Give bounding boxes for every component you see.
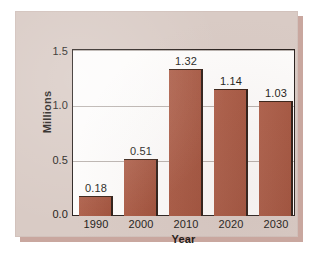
x-tick-2020: 2020 bbox=[219, 218, 244, 230]
bar-value-2010: 1.32 bbox=[175, 55, 197, 67]
y-axis-label: Millions bbox=[41, 74, 53, 150]
scanned-page: 0.18 0.51 1.32 1.14 1.03 1.5 1.0 bbox=[0, 0, 314, 259]
x-axis-label: Year bbox=[72, 233, 295, 245]
y-tick-1-5: 1.5 bbox=[52, 45, 68, 57]
bar-slot-2000: 0.51 bbox=[124, 49, 158, 216]
bar-value-2030: 1.03 bbox=[265, 87, 287, 99]
bar-2030[interactable] bbox=[259, 101, 293, 216]
x-tick-2010: 2010 bbox=[174, 218, 199, 230]
bar-value-2020: 1.14 bbox=[220, 75, 242, 87]
bar-1990[interactable] bbox=[79, 196, 113, 216]
bar-value-1990: 0.18 bbox=[85, 182, 107, 194]
bar-2000[interactable] bbox=[124, 159, 158, 216]
bar-slot-2010: 1.32 bbox=[169, 49, 203, 216]
x-tick-2000: 2000 bbox=[129, 218, 154, 230]
y-tick-0-5: 0.5 bbox=[52, 154, 68, 166]
bar-slot-2020: 1.14 bbox=[214, 49, 248, 216]
chart-card: 0.18 0.51 1.32 1.14 1.03 1.5 1.0 bbox=[15, 11, 298, 237]
y-tick-1-0: 1.0 bbox=[52, 99, 68, 111]
bar-series: 0.18 0.51 1.32 1.14 1.03 bbox=[72, 49, 295, 216]
bar-value-2000: 0.51 bbox=[130, 145, 152, 157]
bar-2010[interactable] bbox=[169, 69, 203, 216]
bar-slot-1990: 0.18 bbox=[79, 49, 113, 216]
bar-2020[interactable] bbox=[214, 89, 248, 216]
x-tick-1990: 1990 bbox=[84, 218, 109, 230]
bar-slot-2030: 1.03 bbox=[259, 49, 293, 216]
x-tick-2030: 2030 bbox=[264, 218, 289, 230]
y-tick-0-0: 0.0 bbox=[52, 208, 68, 220]
x-axis-ticks: 1990 2000 2010 2020 2030 bbox=[72, 218, 295, 234]
